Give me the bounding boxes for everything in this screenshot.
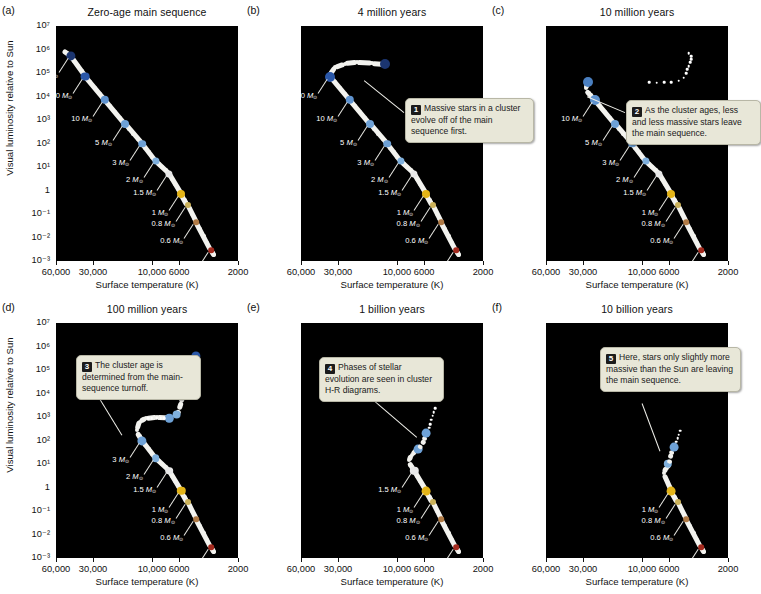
main-sequence-star — [212, 253, 216, 257]
mass-leader-line — [338, 102, 348, 117]
x-axis-label: Surface temperature (K) — [56, 576, 238, 587]
mass-label-m3: 3 M⊙ — [112, 157, 129, 166]
mass-leader-line — [665, 504, 675, 519]
y-axis-label: Visual luminosity relative to Sun — [4, 8, 15, 208]
main-sequence-star — [343, 92, 347, 96]
agb-star — [428, 426, 431, 429]
main-sequence-star — [173, 182, 177, 186]
mass-label-m2: 2 M⊙ — [616, 175, 633, 184]
x-tick-mark — [397, 558, 398, 562]
mass-label-m15: 1.5 M⊙ — [133, 187, 156, 196]
mass-leader-line — [633, 163, 643, 178]
x-tick-label: 6000 — [639, 564, 699, 574]
branch-star — [410, 453, 414, 457]
mass-dot-m1 — [177, 190, 185, 198]
main-sequence-star — [205, 538, 209, 542]
x-tick-mark — [728, 261, 729, 265]
mass-leader-line — [143, 163, 153, 178]
mass-leader-line — [620, 146, 630, 161]
mass-label-m08: 0.8 M⊙ — [397, 516, 420, 525]
main-sequence-star — [692, 531, 696, 535]
mass-label-m2: 2 M⊙ — [371, 175, 388, 184]
giant-star — [422, 429, 431, 438]
main-sequence-star — [173, 479, 177, 483]
mass-leader-line — [420, 207, 430, 222]
x-tick-mark — [338, 261, 339, 265]
callout-box-2: 2As the cluster ages, less and less mass… — [626, 100, 761, 145]
main-sequence-star — [447, 234, 451, 238]
x-tick-label: 30,000 — [308, 267, 368, 277]
mass-dot-m1 — [422, 190, 430, 198]
branch-star — [135, 428, 139, 432]
callout-text: Massive stars in a cluster evolve off of… — [411, 103, 520, 136]
main-sequence-star — [418, 479, 422, 483]
mass-label-m1: 1 M⊙ — [642, 505, 659, 514]
x-tick-mark — [546, 558, 547, 562]
giant-branch-star — [685, 72, 688, 75]
x-tick-mark — [179, 261, 180, 265]
branch-end-star — [380, 59, 390, 69]
panel-f: (f)10 billion years60,00030,00010,000600… — [490, 297, 735, 594]
horizontal-branch-star — [163, 417, 166, 420]
x-tick-label: 30,000 — [553, 564, 613, 574]
main-sequence-star — [392, 150, 396, 154]
mass-dot-m02 — [453, 545, 459, 551]
x-tick-label: 2000 — [698, 267, 758, 277]
main-sequence-star — [637, 150, 641, 154]
mass-dot-m1 — [667, 487, 676, 496]
x-tick-label: 6000 — [149, 564, 209, 574]
callout-number-badge: 3 — [82, 362, 92, 372]
agb-star — [675, 440, 678, 443]
mass-leader-line — [402, 176, 412, 191]
x-tick-mark — [669, 261, 670, 265]
mass-dot-m06 — [193, 516, 199, 522]
main-sequence-star — [688, 227, 692, 231]
mass-leader-line — [414, 493, 424, 508]
x-tick-label: 6000 — [394, 564, 454, 574]
branch-end-star — [583, 77, 593, 87]
mass-label-m15: 1.5 M⊙ — [378, 187, 401, 196]
branch-star — [333, 65, 337, 69]
x-tick-label: 30,000 — [63, 267, 123, 277]
x-tick-mark — [583, 558, 584, 562]
x-tick-label: 30,000 — [553, 267, 613, 277]
callout-box-3: 3The cluster age is determined from the … — [76, 355, 201, 400]
panel-b: (b)4 million years60,00030,00010,0006000… — [245, 0, 490, 297]
mass-label-m10: 10 M⊙ — [316, 114, 337, 123]
mass-label-m08: 0.8 M⊙ — [152, 516, 175, 525]
panel-title-b: 4 million years — [301, 6, 483, 18]
main-sequence-star — [198, 227, 202, 231]
mass-leader-line — [429, 224, 439, 239]
main-sequence-star — [147, 447, 151, 451]
agb-star — [431, 415, 434, 418]
x-tick-mark — [583, 261, 584, 265]
x-tick-mark — [483, 261, 484, 265]
mass-leader-line — [674, 521, 684, 536]
mass-label-m1: 1 M⊙ — [397, 505, 414, 514]
mass-dot-m06 — [438, 516, 444, 522]
mass-label-m2: 2 M⊙ — [126, 175, 143, 184]
main-sequence-star — [457, 253, 461, 257]
x-tick-mark — [669, 558, 670, 562]
mass-label-m10: 10 M⊙ — [71, 114, 92, 123]
mass-dot-m02 — [698, 248, 704, 254]
main-sequence-star — [695, 538, 699, 542]
mass-leader-line — [357, 126, 367, 141]
mass-leader-line — [674, 224, 684, 239]
main-sequence-star — [333, 80, 337, 84]
x-tick-mark — [338, 558, 339, 562]
mass-label-m5: 5 M⊙ — [585, 137, 602, 146]
x-tick-label: 6000 — [149, 267, 209, 277]
x-tick-mark — [56, 558, 57, 562]
main-sequence-star — [88, 80, 92, 84]
main-sequence-star — [212, 550, 216, 554]
mass-dot-m02 — [208, 248, 214, 254]
y-axis-label: Visual luminosity relative to Sun — [4, 305, 15, 505]
mass-leader-line — [169, 196, 179, 211]
panel-title-c: 10 million years — [546, 6, 728, 18]
panel-title-a: Zero-age main sequence — [56, 6, 238, 18]
main-sequence-star — [702, 253, 706, 257]
mass-label-m06: 0.6 M⊙ — [405, 236, 428, 245]
mass-leader-line — [665, 207, 675, 222]
